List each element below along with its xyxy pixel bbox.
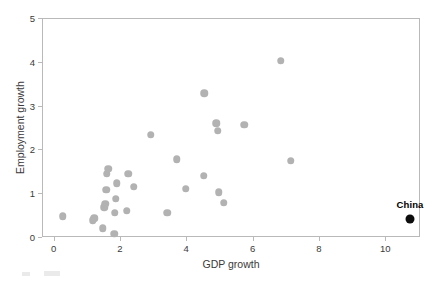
data-point	[287, 157, 295, 165]
x-tick-mark	[186, 237, 187, 241]
y-tick-mark	[38, 18, 42, 19]
data-point-china	[406, 215, 415, 224]
y-tick-label: 1	[30, 188, 35, 199]
data-point	[59, 212, 67, 220]
data-point-label-china: China	[397, 199, 424, 210]
y-tick-mark	[38, 193, 42, 194]
data-point	[102, 186, 110, 194]
x-tick-mark	[319, 237, 320, 241]
data-point	[99, 225, 107, 233]
y-tick-label: 3	[30, 100, 35, 111]
data-point	[277, 57, 285, 65]
x-tick-label: 0	[51, 243, 56, 254]
y-tick-label: 2	[30, 144, 35, 155]
y-tick-label: 0	[30, 232, 35, 243]
data-point	[130, 183, 138, 191]
y-axis-title: Employment growth	[14, 18, 28, 237]
x-tick-label: 2	[117, 243, 122, 254]
data-point	[213, 119, 221, 127]
x-tick-label: 6	[250, 243, 255, 254]
y-tick-label: 5	[30, 13, 35, 24]
x-tick-label: 4	[184, 243, 189, 254]
data-point	[112, 195, 120, 203]
data-point	[201, 90, 209, 98]
scan-artifact-layer	[0, 268, 435, 284]
y-tick-mark	[38, 106, 42, 107]
scan-artifact	[22, 272, 30, 276]
x-tick-mark	[253, 237, 254, 241]
x-tick-mark	[54, 237, 55, 241]
data-point	[111, 209, 119, 217]
y-tick-mark	[38, 237, 42, 238]
data-point	[241, 121, 249, 129]
data-points-layer: China	[43, 19, 419, 236]
scatter-chart-figure: Employment growth GDP growth China 02468…	[0, 0, 435, 284]
data-point	[123, 207, 131, 215]
data-point	[105, 165, 113, 173]
y-tick-mark	[38, 149, 42, 150]
data-point	[101, 200, 109, 208]
plot-area: China	[42, 18, 420, 237]
data-point	[215, 188, 223, 196]
data-point	[214, 127, 222, 135]
data-point	[173, 155, 181, 163]
data-point	[220, 199, 228, 207]
data-point	[124, 170, 132, 178]
data-point	[200, 172, 208, 180]
data-point	[147, 131, 155, 139]
x-tick-label: 8	[316, 243, 321, 254]
y-tick-mark	[38, 62, 42, 63]
data-point	[111, 230, 119, 238]
x-tick-mark	[120, 237, 121, 241]
y-tick-label: 4	[30, 56, 35, 67]
data-point	[113, 180, 121, 188]
data-point	[91, 215, 99, 223]
data-point	[164, 209, 172, 217]
scan-artifact	[44, 271, 60, 276]
data-point	[182, 185, 190, 193]
x-tick-label: 10	[380, 243, 391, 254]
x-tick-mark	[385, 237, 386, 241]
